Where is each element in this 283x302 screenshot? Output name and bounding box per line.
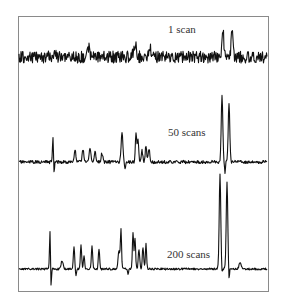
spectrum-trace-200-scans <box>19 174 267 285</box>
trace-label-200-scans: 200 scans <box>167 249 210 260</box>
trace-label-1-scan: 1 scan <box>168 24 196 35</box>
spectra-figure <box>0 0 283 302</box>
spectrum-trace-50-scans <box>19 95 267 173</box>
spectrum-trace-1-scan <box>19 30 267 63</box>
trace-label-50-scans: 50 scans <box>168 127 206 138</box>
